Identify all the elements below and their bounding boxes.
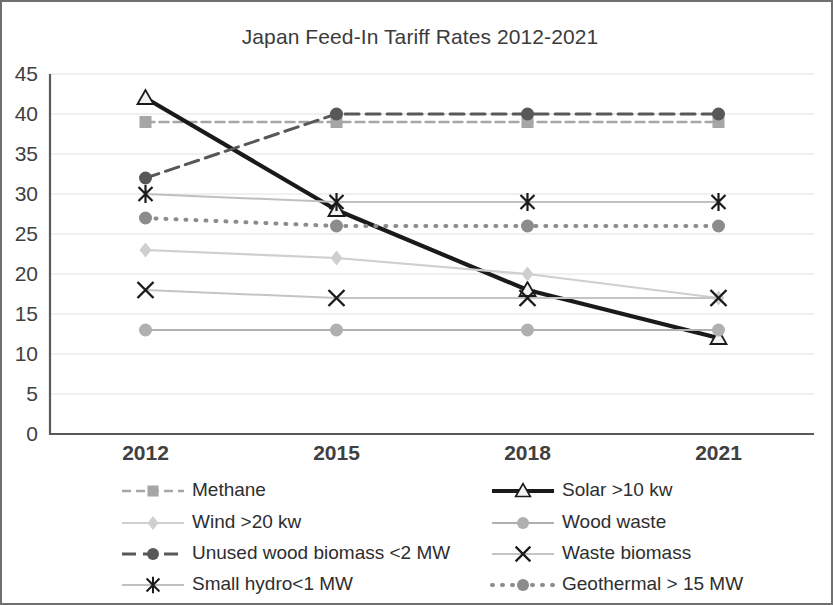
legend-item[interactable]: Geothermal > 15 MW: [492, 573, 743, 594]
page-title: Japan Feed-In Tariff Rates 2012-2021: [242, 25, 599, 48]
legend-item[interactable]: Unused wood biomass <2 MW: [122, 542, 450, 563]
axis-lines: [50, 74, 814, 434]
x-axis-tick-label: 2015: [313, 441, 360, 464]
data-point-marker: [330, 108, 343, 121]
series-solar-10-kw: [138, 90, 727, 344]
data-point-marker: [521, 108, 534, 121]
legend-item[interactable]: Small hydro<1 MW: [122, 573, 353, 594]
data-point-marker: [330, 324, 343, 337]
series-wood-waste: [139, 324, 725, 337]
legend-label: Methane: [192, 479, 266, 500]
series-line: [146, 218, 719, 226]
legend-item[interactable]: Waste biomass: [492, 542, 691, 563]
y-axis-tick-label: 25: [15, 222, 38, 245]
series-waste-biomass: [138, 282, 727, 306]
legend-item[interactable]: Solar >10 kw: [492, 479, 673, 500]
legend-label: Geothermal > 15 MW: [562, 573, 743, 594]
legend: MethaneSolar >10 kwWind >20 kwWood waste…: [122, 479, 743, 594]
y-axis-tick-label: 10: [15, 342, 38, 365]
y-axis-tick-label: 15: [15, 302, 38, 325]
legend-label: Small hydro<1 MW: [192, 573, 353, 594]
data-point-marker: [138, 90, 154, 104]
series-geothermal-15-mw: [139, 212, 725, 233]
axes-group: [50, 74, 814, 434]
data-point-marker: [140, 243, 152, 258]
series-methane: [140, 116, 725, 128]
tariff-line-chart: 051015202530354045 2012201520182021 Japa…: [2, 2, 833, 605]
y-axis-tick-label: 30: [15, 182, 38, 205]
y-axis-tick-label: 20: [15, 262, 38, 285]
y-axis-tick-label: 45: [15, 62, 38, 85]
legend-label: Unused wood biomass <2 MW: [192, 542, 450, 563]
data-point-marker: [521, 324, 534, 337]
y-axis-labels: 051015202530354045: [15, 62, 38, 445]
series-group: [138, 90, 727, 344]
data-point-marker: [712, 108, 725, 121]
x-axis-tick-label: 2021: [695, 441, 742, 464]
x-axis-tick-label: 2012: [122, 441, 169, 464]
series-small-hydro-1-mw: [139, 185, 726, 211]
data-point-marker: [147, 548, 159, 560]
data-point-marker: [522, 267, 534, 282]
legend-item[interactable]: Methane: [122, 479, 266, 500]
data-point-marker: [330, 220, 343, 233]
x-axis-labels: 2012201520182021: [122, 441, 742, 464]
y-axis-tick-label: 40: [15, 102, 38, 125]
data-point-marker: [140, 116, 152, 128]
data-point-marker: [331, 251, 343, 266]
legend-label: Wood waste: [562, 511, 666, 532]
y-axis-tick-label: 0: [26, 422, 38, 445]
legend-item[interactable]: Wind >20 kw: [122, 511, 302, 532]
data-point-marker: [147, 516, 158, 530]
y-axis-tick-label: 5: [26, 382, 38, 405]
data-point-marker: [517, 517, 529, 529]
data-point-marker: [139, 172, 152, 185]
gridlines-group: [50, 74, 814, 434]
series-line: [146, 98, 719, 338]
data-point-marker: [712, 220, 725, 233]
data-point-marker: [517, 579, 529, 591]
y-axis-tick-label: 35: [15, 142, 38, 165]
data-point-marker: [147, 485, 158, 496]
data-point-marker: [521, 220, 534, 233]
legend-item[interactable]: Wood waste: [492, 511, 666, 532]
x-axis-tick-label: 2018: [504, 441, 551, 464]
legend-label: Wind >20 kw: [192, 511, 302, 532]
legend-label: Waste biomass: [562, 542, 691, 563]
series-line: [146, 194, 719, 202]
data-point-marker: [139, 324, 152, 337]
data-point-marker: [712, 324, 725, 337]
chart-frame: 051015202530354045 2012201520182021 Japa…: [0, 0, 833, 605]
data-point-marker: [139, 212, 152, 225]
series-line: [146, 290, 719, 298]
legend-label: Solar >10 kw: [562, 479, 673, 500]
